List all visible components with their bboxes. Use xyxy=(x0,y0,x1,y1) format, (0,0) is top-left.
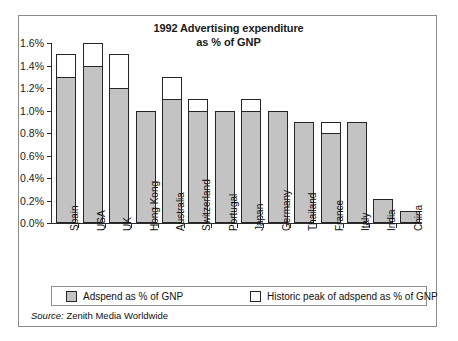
y-axis-label: 1.6% xyxy=(20,37,44,49)
bar-group[interactable] xyxy=(241,43,261,223)
y-axis-label: 0.6% xyxy=(20,150,44,162)
y-axis-tick xyxy=(47,133,52,134)
bar-group[interactable] xyxy=(400,43,420,223)
legend-swatch-historic-peak xyxy=(250,291,261,302)
category-label: Australia xyxy=(175,192,186,231)
category-label: USA xyxy=(96,210,107,231)
category-label: Germany xyxy=(281,190,292,231)
bar-segment-adspend[interactable] xyxy=(347,122,367,223)
bar-group[interactable] xyxy=(321,43,341,223)
y-axis-tick xyxy=(47,178,52,179)
source-text: Zenith Media Worldwide xyxy=(64,310,168,321)
category-label: France xyxy=(334,200,345,231)
bar-segment-adspend[interactable] xyxy=(109,88,129,223)
plot-area: 0.0%0.2%0.4%0.6%0.8%1.0%1.2%1.4%1.6% Spa… xyxy=(51,43,422,224)
category-label: Hong Kong xyxy=(149,181,160,231)
legend-label-historic-peak: Historic peak of adspend as % of GNP xyxy=(267,291,438,302)
y-axis-label: 1.4% xyxy=(20,60,44,72)
y-axis-tick xyxy=(47,156,52,157)
bar-group[interactable] xyxy=(56,43,76,223)
y-axis-tick xyxy=(47,111,52,112)
category-label: China xyxy=(413,205,424,231)
y-axis-label: 1.0% xyxy=(20,105,44,117)
bar-group[interactable] xyxy=(347,43,367,223)
category-label: Spain xyxy=(69,205,80,231)
legend-entry-adspend: Adspend as % of GNP xyxy=(66,287,183,305)
legend-swatch-adspend xyxy=(66,291,77,302)
y-axis-label: 0.2% xyxy=(20,195,44,207)
bar-group[interactable] xyxy=(373,43,393,223)
y-axis-tick xyxy=(47,66,52,67)
y-axis-tick xyxy=(47,43,52,44)
y-axis-label: 0.0% xyxy=(20,217,44,229)
legend-entry-historic-peak: Historic peak of adspend as % of GNP xyxy=(250,287,438,305)
bar-segment-adspend[interactable] xyxy=(56,77,76,223)
bar-segment-adspend[interactable] xyxy=(83,66,103,224)
category-label: Portugal xyxy=(228,194,239,231)
y-axis-label: 1.2% xyxy=(20,82,44,94)
category-label: Japan xyxy=(254,204,265,231)
bar-group[interactable] xyxy=(83,43,103,223)
category-label: UK xyxy=(122,217,133,231)
category-label: Switzerland xyxy=(201,179,212,231)
y-axis-tick xyxy=(47,223,52,224)
source-note: Source: Zenith Media Worldwide xyxy=(31,310,168,321)
source-label: Source: xyxy=(31,310,64,321)
y-axis-tick xyxy=(47,201,52,202)
category-label: India xyxy=(386,209,397,231)
y-axis-label: 0.8% xyxy=(20,127,44,139)
y-axis-tick xyxy=(47,88,52,89)
chart-figure-frame: 1992 Advertising expenditure as % of GNP… xyxy=(18,15,437,327)
category-label: Italy xyxy=(360,213,371,231)
chart-title-line-1: 1992 Advertising expenditure xyxy=(153,22,303,34)
category-label: Thailand xyxy=(307,193,318,231)
y-axis-label: 0.4% xyxy=(20,172,44,184)
legend-label-adspend: Adspend as % of GNP xyxy=(83,291,183,302)
bar-group[interactable] xyxy=(109,43,129,223)
chart-legend: Adspend as % of GNP Historic peak of ads… xyxy=(51,286,427,306)
